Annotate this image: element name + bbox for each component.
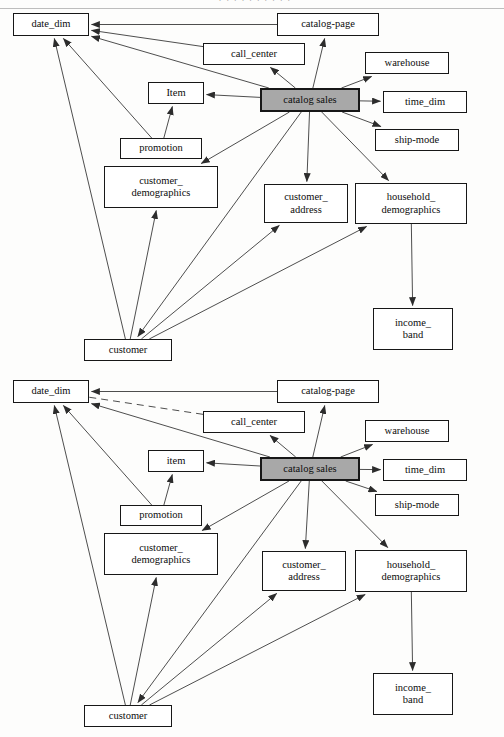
entity-label: catalog sales — [283, 94, 336, 107]
entity-box-customer_address[interactable]: customer_ address — [262, 551, 346, 591]
entity-box-item[interactable]: Item — [148, 82, 204, 104]
edge-call_center-to-date_dim — [89, 397, 203, 414]
edge-customer-to-customer_demographics — [130, 211, 156, 340]
entity-label: warehouse — [385, 425, 430, 438]
entity-box-time_dim[interactable]: time_dim — [383, 459, 467, 481]
entity-label: item — [167, 455, 186, 468]
diagram-page: · · · · · · · · · · date_dimcatalog-page… — [0, 0, 504, 737]
edge-catalog-sales-to-catalog-page — [313, 406, 325, 458]
entity-label: call_center — [231, 416, 277, 429]
entity-box-item[interactable]: item — [148, 450, 204, 472]
edge-catalog-sales-to-customer_address — [307, 112, 310, 182]
entity-box-customer[interactable]: customer — [84, 705, 172, 727]
edge-catalog-sales-to-call_center — [270, 436, 296, 458]
entity-box-customer[interactable]: customer — [84, 339, 172, 361]
entity-label: call_center — [231, 48, 277, 61]
edge-catalog-sales-to-item — [207, 463, 261, 466]
entity-label: catalog-page — [301, 18, 355, 31]
entity-label: customer_ demographics — [132, 542, 191, 567]
page-header-fragment: · · · · · · · · · · — [150, 0, 360, 5]
entity-box-call_center[interactable]: call_center — [203, 43, 305, 65]
edge-catalog-sales-to-catalog-page — [313, 39, 325, 89]
edge-customer-to-customer_demographics — [130, 578, 156, 706]
entity-label: time_dim — [405, 96, 445, 109]
entity-box-household_demographics[interactable]: household_ demographics — [355, 183, 467, 224]
entity-box-customer_demographics[interactable]: customer_ demographics — [104, 533, 218, 575]
entity-box-promotion[interactable]: promotion — [120, 505, 202, 526]
entity-box-catalog-sales[interactable]: catalog sales — [260, 88, 360, 112]
entity-label: catalog-page — [301, 385, 355, 398]
edge-catalog-sales-to-customer_demographics — [202, 481, 289, 531]
edge-household_demographics-to-income_band — [411, 592, 412, 671]
entity-label: promotion — [139, 142, 183, 155]
entity-label: warehouse — [385, 57, 430, 70]
entity-label: income_ band — [395, 682, 431, 707]
edge-customer-to-household_demographics — [149, 595, 365, 706]
edge-household_demographics-to-income_band — [411, 224, 412, 306]
edge-customer-to-customer_address — [141, 594, 276, 706]
entity-label: household_ demographics — [382, 559, 441, 584]
entity-box-date_dim[interactable]: date_dim — [13, 380, 89, 403]
header-divider — [0, 8, 504, 9]
edge-catalog-sales-to-warehouse — [341, 77, 371, 89]
entity-label: date_dim — [31, 18, 70, 31]
entity-label: income_ band — [395, 317, 431, 342]
entity-label: time_dim — [405, 464, 445, 477]
edge-catalog-sales-to-ship-mode — [342, 112, 381, 127]
edge-promotion-to-item — [164, 107, 173, 139]
edge-promotion-to-date_dim — [63, 406, 151, 506]
edge-customer-to-customer_address — [141, 226, 279, 340]
entity-box-date_dim[interactable]: date_dim — [13, 13, 89, 36]
entity-box-ship-mode[interactable]: ship-mode — [375, 494, 459, 516]
entity-box-catalog-page[interactable]: catalog-page — [277, 13, 379, 36]
entity-label: promotion — [139, 509, 183, 522]
edge-promotion-to-item — [164, 475, 172, 506]
entity-box-warehouse[interactable]: warehouse — [365, 52, 449, 74]
entity-label: ship-mode — [395, 134, 439, 147]
entity-label: household_ demographics — [382, 191, 441, 216]
edge-catalog-sales-to-customer_demographics — [201, 112, 289, 164]
entity-label: Item — [166, 87, 185, 100]
entity-label: customer_ address — [284, 191, 328, 216]
entity-box-warehouse[interactable]: warehouse — [365, 420, 449, 442]
edge-customer-to-household_demographics — [149, 227, 366, 340]
entity-box-customer_demographics[interactable]: customer_ demographics — [104, 166, 218, 208]
entity-label: customer — [109, 710, 148, 723]
entity-label: catalog sales — [283, 463, 336, 476]
entity-box-catalog-sales[interactable]: catalog sales — [260, 457, 360, 481]
edge-call_center-to-date_dim — [92, 30, 204, 46]
entity-box-call_center[interactable]: call_center — [203, 411, 305, 433]
edge-catalog-sales-to-customer_address — [305, 481, 309, 549]
entity-label: date_dim — [31, 385, 70, 398]
entity-box-household_demographics[interactable]: household_ demographics — [355, 550, 467, 592]
entity-box-income_band[interactable]: income_ band — [373, 308, 453, 350]
entity-box-customer_address[interactable]: customer_ address — [264, 184, 348, 223]
entity-label: customer_ demographics — [132, 175, 191, 200]
entity-box-ship-mode[interactable]: ship-mode — [375, 129, 459, 151]
edge-catalog-sales-to-warehouse — [341, 445, 373, 458]
entity-box-time_dim[interactable]: time_dim — [383, 91, 467, 113]
entity-label: ship-mode — [395, 499, 439, 512]
edge-catalog-sales-to-ship-mode — [346, 481, 377, 492]
entity-box-catalog-page[interactable]: catalog-page — [277, 380, 379, 403]
entity-label: customer — [109, 344, 148, 357]
edge-catalog-sales-to-item — [207, 95, 261, 98]
edge-promotion-to-date_dim — [63, 39, 151, 139]
entity-box-income_band[interactable]: income_ band — [373, 673, 453, 715]
entity-box-promotion[interactable]: promotion — [120, 138, 202, 159]
edge-catalog-sales-to-call_center — [270, 68, 295, 89]
entity-label: customer_ address — [282, 559, 326, 584]
